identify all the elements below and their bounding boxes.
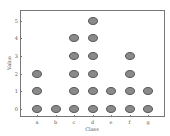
y-tick-mark xyxy=(20,91,22,92)
x-tick-mark xyxy=(56,115,57,117)
x-tick-label: e xyxy=(106,119,116,125)
x-tick-label: b xyxy=(51,119,61,125)
data-point xyxy=(125,70,135,78)
data-point xyxy=(51,105,61,113)
data-point xyxy=(88,52,98,60)
data-point xyxy=(106,105,116,113)
data-point xyxy=(88,105,98,113)
y-tick-label: 2 xyxy=(10,71,18,77)
x-tick-mark xyxy=(130,115,131,117)
x-tick-mark xyxy=(37,115,38,117)
y-tick-mark xyxy=(20,109,22,110)
data-point xyxy=(69,70,79,78)
x-tick-mark xyxy=(148,115,149,117)
data-point xyxy=(88,34,98,42)
data-point xyxy=(88,70,98,78)
x-tick-label: d xyxy=(88,119,98,125)
y-tick-label: 5 xyxy=(10,18,18,24)
y-tick-mark xyxy=(20,56,22,57)
y-tick-mark xyxy=(20,38,22,39)
y-tick-label: 0 xyxy=(10,106,18,112)
x-tick-mark xyxy=(93,115,94,117)
x-tick-label: f xyxy=(125,119,135,125)
x-tick-mark xyxy=(111,115,112,117)
data-point xyxy=(125,52,135,60)
data-point xyxy=(32,70,42,78)
x-tick-label: a xyxy=(32,119,42,125)
data-point xyxy=(69,52,79,60)
y-tick-label: 1 xyxy=(10,88,18,94)
data-point xyxy=(32,105,42,113)
x-tick-mark xyxy=(74,115,75,117)
data-point xyxy=(143,105,153,113)
x-axis-label: Class xyxy=(82,126,102,132)
data-point xyxy=(69,105,79,113)
data-point xyxy=(88,17,98,25)
y-tick-mark xyxy=(20,74,22,75)
dot-plot-chart: Value Class 012345 abcdefg xyxy=(0,0,170,136)
data-point xyxy=(88,87,98,95)
data-point xyxy=(125,105,135,113)
y-tick-label: 4 xyxy=(10,35,18,41)
y-tick-mark xyxy=(20,21,22,22)
plot-area xyxy=(20,10,165,117)
x-tick-label: g xyxy=(143,119,153,125)
data-point xyxy=(125,87,135,95)
x-tick-label: c xyxy=(69,119,79,125)
y-tick-label: 3 xyxy=(10,53,18,59)
